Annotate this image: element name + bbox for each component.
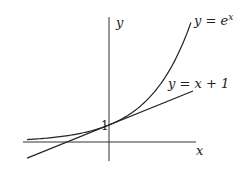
y-intercept-label: 1 [101,119,109,133]
line-label: y = x + 1 [167,76,229,91]
chart: x y 1 y = ex y = x + 1 [0,0,239,172]
exp-curve-label: y = ex [193,12,233,28]
y-axis-label: y [115,15,124,30]
x-axis-label: x [196,143,204,158]
